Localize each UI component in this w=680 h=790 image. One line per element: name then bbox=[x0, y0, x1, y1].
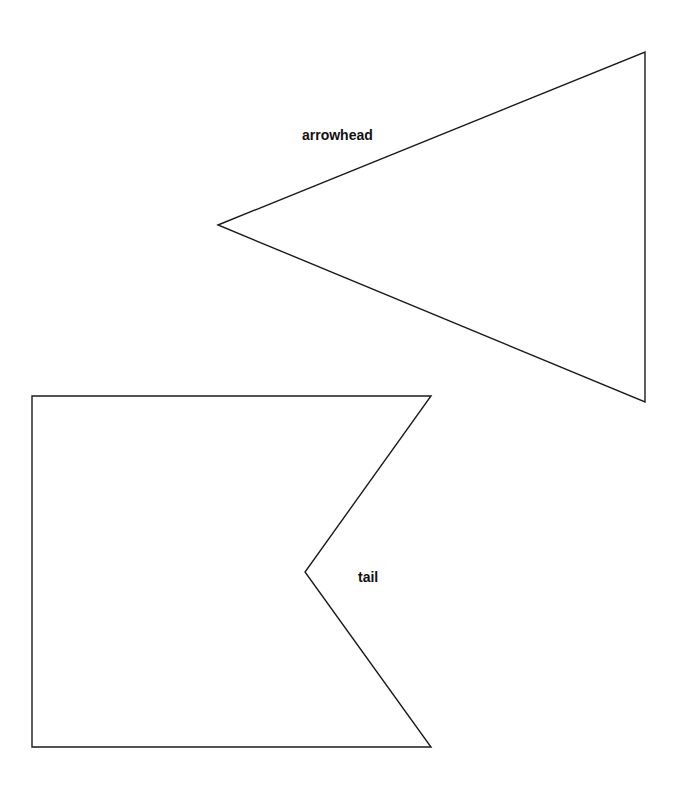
tail-label: tail bbox=[358, 570, 378, 584]
arrowhead-triangle-shape bbox=[218, 52, 645, 402]
arrowhead-label: arrowhead bbox=[302, 128, 373, 142]
diagram-canvas bbox=[0, 0, 680, 790]
